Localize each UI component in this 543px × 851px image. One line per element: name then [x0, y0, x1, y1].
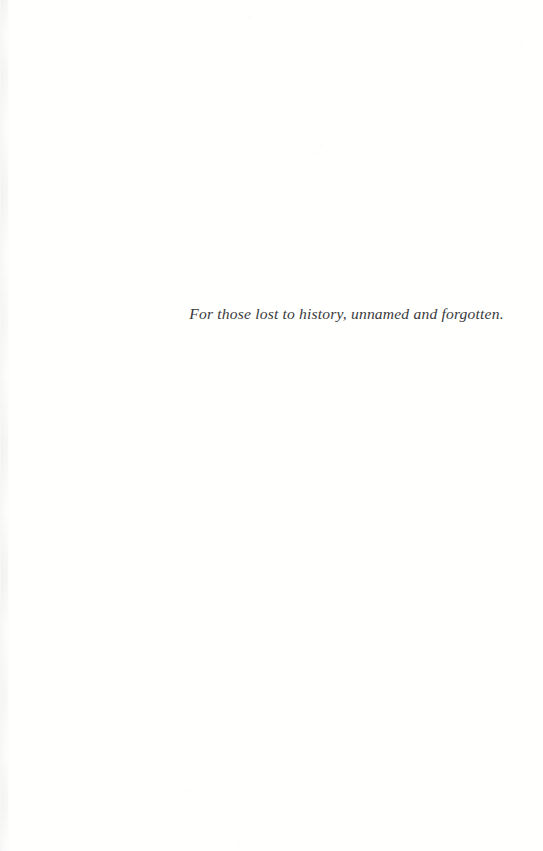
dedication-block: For those lost to history, unnamed and f… [0, 303, 543, 325]
scan-gutter-shadow [0, 0, 12, 851]
paper-grain-texture [0, 0, 543, 851]
dedication-text: For those lost to history, unnamed and f… [189, 303, 503, 325]
dedication-page: For those lost to history, unnamed and f… [0, 0, 543, 851]
